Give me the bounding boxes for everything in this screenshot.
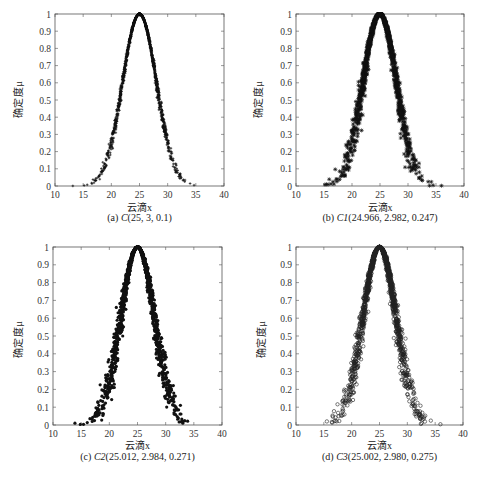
y-axis-label: 确定度μ [253,321,268,358]
subplot-d: 1015202530354000.10.20.30.40.50.60.70.80… [0,0,483,479]
y-tick-label: 0.7 [280,296,292,306]
y-tick-label: 0.8 [280,278,292,288]
caption-params: (25.002, 2.980, 0.275) [348,451,437,462]
scatter-plot-d: 1015202530354000.10.20.30.40.50.60.70.80… [0,0,483,479]
y-tick-label: 1 [287,243,292,253]
y-tick-label: 0.4 [280,349,292,359]
plot-frame [296,247,463,425]
y-tick-label: 0.9 [280,260,292,270]
x-axis-label: 云滴x [296,437,463,452]
y-tick-label: 0.3 [280,367,292,377]
caption-prefix: (d) [322,451,336,462]
y-tick-label: 0.1 [280,403,292,413]
y-tick-label: 0.2 [280,385,292,395]
y-tick-label: 0 [287,421,292,431]
subplot-caption-d: (d) C3(25.002, 2.980, 0.275) [296,451,463,462]
y-tick-label: 0.6 [280,314,292,324]
cloud-drops [325,245,442,426]
y-tick-label: 0.5 [280,332,292,342]
caption-cloud-name: C3 [336,451,348,462]
